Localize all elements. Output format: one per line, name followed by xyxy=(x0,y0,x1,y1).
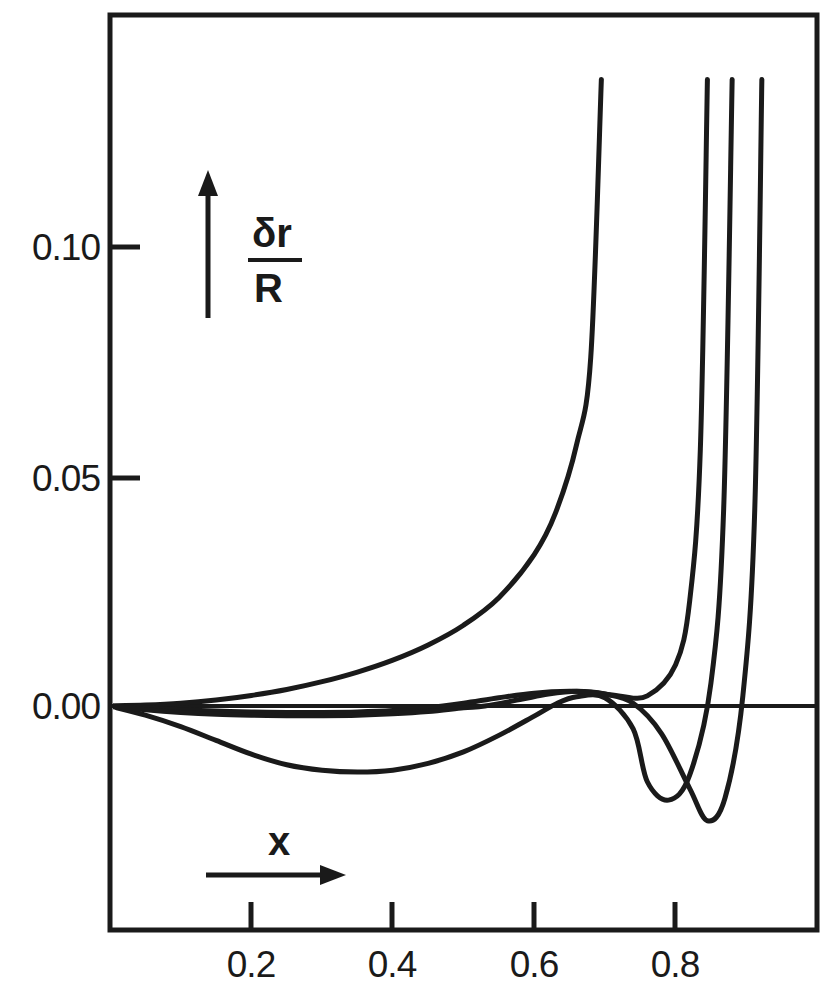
plot-frame xyxy=(110,15,817,930)
y-axis-label-numerator: δr xyxy=(252,211,292,255)
x-tick-label-0.6: 0.6 xyxy=(510,944,558,985)
x-tick-label-0.2: 0.2 xyxy=(227,944,275,985)
x-tick-label-0.4: 0.4 xyxy=(368,944,417,985)
y-axis-label-denominator: R xyxy=(254,266,283,310)
y-tick-label-0.10: 0.10 xyxy=(32,227,100,268)
chart-svg: 0.10 0.05 0.00 0.2 0.4 0.6 0.8 δr R xyxy=(0,0,825,994)
x-tick-label-0.8: 0.8 xyxy=(651,944,699,985)
x-axis-tick-labels: 0.2 0.4 0.6 0.8 xyxy=(227,944,699,985)
figure-container: 0.10 0.05 0.00 0.2 0.4 0.6 0.8 δr R xyxy=(0,0,825,994)
y-axis-tick-labels: 0.10 0.05 0.00 xyxy=(32,227,100,727)
x-axis-label: x xyxy=(268,819,290,863)
y-tick-label-0.05: 0.05 xyxy=(32,458,100,499)
y-tick-label-0.00: 0.00 xyxy=(32,686,100,727)
